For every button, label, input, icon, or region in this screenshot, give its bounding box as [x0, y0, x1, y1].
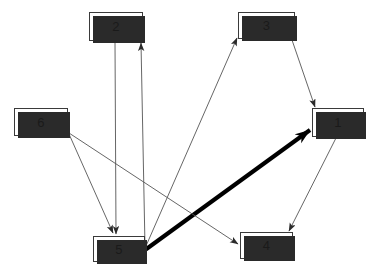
- node-label-6: 6: [37, 116, 44, 129]
- edge-5-to-2: [141, 43, 145, 247]
- node-3[interactable]: 3: [238, 12, 295, 39]
- node-label-2: 2: [112, 20, 119, 33]
- node-5[interactable]: 5: [93, 236, 145, 262]
- node-1[interactable]: 1: [312, 108, 364, 137]
- node-4[interactable]: 4: [240, 232, 293, 259]
- node-6[interactable]: 6: [14, 108, 68, 136]
- edge-3-to-1: [292, 40, 315, 107]
- edge-1-to-4: [289, 138, 336, 231]
- edge-2-to-5: [115, 42, 116, 234]
- node-2[interactable]: 2: [89, 12, 143, 41]
- node-label-3: 3: [263, 19, 270, 32]
- node-label-4: 4: [263, 239, 270, 252]
- edge-6-to-4: [69, 133, 238, 244]
- edge-group: [69, 38, 336, 250]
- diagram-canvas: 123456: [0, 0, 375, 275]
- node-label-5: 5: [115, 243, 122, 256]
- edge-6-to-5: [69, 134, 113, 233]
- node-label-1: 1: [334, 116, 341, 129]
